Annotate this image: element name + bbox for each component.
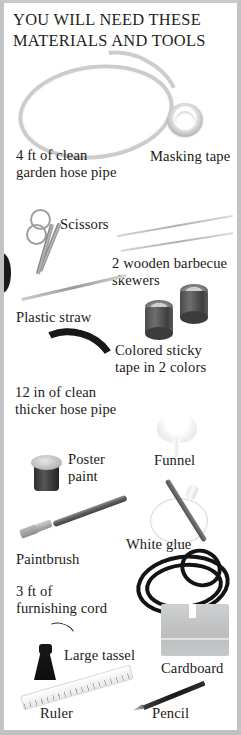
illustration-stage: YOU WILL NEED THESE MATERIALS AND TOOLS … (4, 3, 237, 730)
pencil-tip-icon (132, 704, 145, 713)
skewer-icon (121, 232, 234, 252)
label-masking-tape: Masking tape (150, 148, 230, 165)
label-white-glue: White glue (126, 536, 191, 553)
materials-panel: YOU WILL NEED THESE MATERIALS AND TOOLS … (0, 0, 241, 735)
label-funnel: Funnel (154, 452, 195, 469)
offpage-object-icon (0, 253, 11, 293)
tassel-icon (34, 652, 56, 680)
label-scissors: Scissors (60, 216, 109, 233)
label-sticky-tape-line1: Colored sticky (115, 342, 202, 359)
label-ruler: Ruler (40, 705, 73, 722)
label-skewers-line1: 2 wooden barbecue (112, 255, 227, 272)
label-cardboard: Cardboard (161, 660, 224, 677)
tape-roll-icon (167, 103, 203, 137)
label-pencil: Pencil (152, 705, 189, 722)
label-sticky-tape-line2: tape in 2 colors (115, 359, 206, 376)
label-furnishing-cord-line1: 3 ft of (16, 583, 52, 600)
label-plastic-straw: Plastic straw (16, 309, 91, 326)
label-large-tassel: Large tassel (64, 647, 135, 664)
label-thicker-hose-line2: thicker hose pipe (15, 401, 116, 418)
paintbrush-bristle-icon (19, 524, 38, 538)
page-title-line1: YOU WILL NEED THESE (13, 9, 201, 30)
cardboard-icon (161, 604, 229, 656)
label-paintbrush: Paintbrush (16, 551, 79, 568)
page-title-line2: MATERIALS AND TOOLS (13, 30, 206, 51)
paintbrush-icon (52, 495, 127, 527)
label-poster-paint-line2: paint (68, 468, 98, 485)
label-garden-hose-line1: 4 ft of clean (16, 147, 87, 164)
paint-pot-lid-icon (31, 455, 62, 470)
label-thicker-hose-line1: 12 in of clean (15, 384, 96, 401)
glue-tip-icon (185, 484, 200, 501)
label-garden-hose-line2: garden hose pipe (16, 164, 116, 181)
label-poster-paint-line1: Poster (68, 451, 105, 468)
label-furnishing-cord-line2: furnishing cord (16, 600, 107, 617)
